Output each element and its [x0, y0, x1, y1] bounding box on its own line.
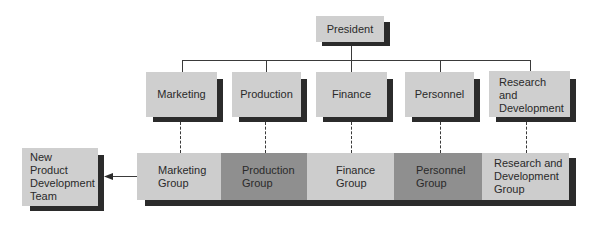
team-line-2: Product	[30, 164, 98, 177]
production-group-line-1: Production	[242, 164, 295, 177]
research-box: Research and Development	[489, 71, 570, 117]
marketing-label: Marketing	[157, 88, 205, 101]
research-group: Research and Development Group	[482, 153, 569, 200]
personnel-group-line-1: Personnel	[416, 164, 466, 177]
personnel-box: Personnel	[405, 72, 474, 117]
personnel-dashed-connector	[440, 122, 441, 153]
new-product-development-team-box: New Product Development Team	[22, 148, 98, 206]
finance-group-line-2: Group	[336, 177, 375, 190]
marketing-dashed-connector	[180, 122, 181, 153]
horizontal-connector	[182, 60, 531, 61]
research-group-line-2: Development	[494, 170, 563, 183]
president-label: President	[327, 23, 373, 36]
production-group-line-2: Group	[242, 177, 295, 190]
personnel-group-line-2: Group	[416, 177, 466, 190]
personnel-label: Personnel	[415, 88, 465, 101]
production-label: Production	[240, 88, 293, 101]
team-line-1: New	[30, 151, 98, 164]
research-group-line-1: Research and	[494, 157, 563, 170]
research-dashed-connector	[526, 122, 527, 153]
president-connector	[351, 46, 352, 60]
finance-connector	[351, 60, 352, 72]
research-label-line-1: Research	[499, 76, 570, 89]
team-line-3: Development	[30, 177, 98, 190]
production-dashed-connector	[265, 122, 266, 153]
finance-group: Finance Group	[307, 153, 394, 200]
production-box: Production	[232, 72, 301, 117]
personnel-group: Personnel Group	[394, 153, 482, 200]
finance-dashed-connector	[351, 122, 352, 153]
team-line-4: Team	[30, 190, 98, 203]
marketing-group: Marketing Group	[137, 153, 221, 200]
research-group-line-3: Group	[494, 183, 563, 196]
team-arrow-line	[110, 176, 137, 177]
marketing-group-line-2: Group	[158, 177, 206, 190]
marketing-connector	[182, 60, 183, 72]
personnel-connector	[440, 60, 441, 72]
research-label-line-3: Development	[499, 102, 570, 115]
marketing-group-line-1: Marketing	[158, 164, 206, 177]
marketing-box: Marketing	[146, 72, 217, 117]
arrow-left-icon	[104, 172, 113, 181]
president-box: President	[316, 16, 384, 42]
finance-label: Finance	[332, 88, 371, 101]
production-connector	[266, 60, 267, 72]
production-group: Production Group	[221, 153, 307, 200]
research-label-line-2: and	[499, 89, 570, 102]
finance-box: Finance	[316, 72, 387, 117]
finance-group-line-1: Finance	[336, 164, 375, 177]
